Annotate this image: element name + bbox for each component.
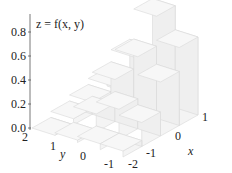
y-tick-label: 0 <box>80 149 86 163</box>
y-tick-label: 1 <box>50 139 56 153</box>
z-tick-label: 0.4 <box>11 73 26 87</box>
z-tick-label: 0.8 <box>11 25 26 39</box>
y-tick-label: -1 <box>104 157 114 171</box>
bar3d-chart: 0.00.20.40.60.8 210-1 -2-101 z = f(x, y)… <box>0 0 232 173</box>
x-tick-label: 0 <box>175 129 181 143</box>
x-tick-label: -1 <box>146 146 156 160</box>
x-axis-label: x <box>187 144 194 158</box>
x-tick-label: -2 <box>128 157 138 171</box>
y-tick-label: 2 <box>22 130 28 144</box>
z-tick-label: 0.2 <box>11 97 26 111</box>
z-tick-label: 0.6 <box>11 49 26 63</box>
y-axis-label: y <box>59 147 66 161</box>
chart-title: z = f(x, y) <box>36 17 84 31</box>
z-axis-ticks: 0.00.20.40.60.8 <box>11 25 31 135</box>
x-tick-label: 1 <box>202 110 208 124</box>
